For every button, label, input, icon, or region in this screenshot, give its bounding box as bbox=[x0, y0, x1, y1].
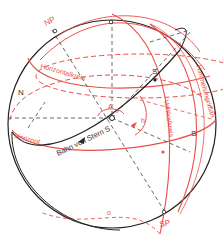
celestial-sphere-diagram: NP N Horizontalkreis Horizont Bahn von S… bbox=[0, 0, 223, 239]
label-north: N bbox=[18, 88, 24, 97]
label-o: o bbox=[107, 209, 111, 216]
polar-axis bbox=[52, 30, 165, 212]
label-sp: SP bbox=[159, 218, 171, 229]
vertikal-horizon-point bbox=[161, 150, 164, 153]
np-point bbox=[53, 29, 57, 33]
north-tick bbox=[28, 102, 45, 128]
red-dash-right bbox=[140, 100, 215, 120]
label-azimuth: A bbox=[108, 103, 113, 110]
observer-point bbox=[110, 116, 115, 121]
label-altitude: h bbox=[141, 117, 145, 124]
star-point bbox=[153, 78, 156, 81]
vertikalkreis bbox=[112, 14, 169, 234]
upper-circle bbox=[40, 23, 205, 70]
horizon-front bbox=[12, 120, 216, 150]
label-np: NP bbox=[43, 15, 57, 28]
altitude-arc bbox=[135, 96, 146, 135]
star-vertical-line bbox=[112, 118, 190, 152]
sp-point bbox=[162, 210, 166, 214]
label-star: S bbox=[152, 67, 157, 76]
label-vertikalkreis: Vertikalkreis bbox=[163, 99, 175, 138]
zenith-point bbox=[109, 20, 113, 24]
label-horizontalkreis: Horizontalkreis bbox=[40, 62, 87, 82]
label-south: S bbox=[191, 129, 196, 138]
